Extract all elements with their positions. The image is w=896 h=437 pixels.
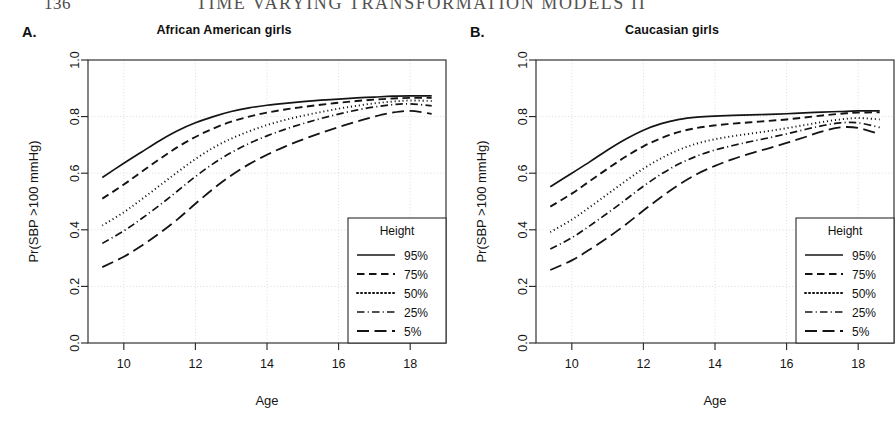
y-tick-label: 0.2 [68,278,82,295]
y-tick-label: 1.0 [68,51,82,68]
x-tick-label: 16 [780,357,794,371]
curve-75pct [102,98,431,199]
legend: Height95%75%50%25%5% [348,218,446,343]
x-tick-label: 18 [851,357,865,371]
legend-label-50pct: 50% [404,287,428,301]
panel-a: A. African American girls 10121416180.00… [0,0,448,437]
curve-50pct [550,118,879,232]
panel-b: B. Caucasian girls 10121416180.00.20.40.… [448,0,896,437]
x-axis-title: Age [703,393,726,408]
y-tick-label: 0.6 [68,164,82,181]
legend-label-50pct: 50% [852,287,876,301]
x-tick-label: 12 [188,357,202,371]
legend-label-75pct: 75% [852,268,876,282]
y-tick-label: 0.2 [516,278,530,295]
y-tick-label: 0.8 [516,108,530,125]
y-tick-label: 0.4 [516,221,530,238]
y-axis-title: Pr(SBP >100 mmHg) [26,140,41,262]
legend-title: Height [828,224,863,238]
legend-label-25pct: 25% [404,306,428,320]
x-tick-label: 18 [403,357,417,371]
legend-label-95pct: 95% [404,249,428,263]
x-tick-label: 14 [260,357,274,371]
legend: Height95%75%50%25%5% [796,218,894,343]
x-tick-label: 12 [636,357,650,371]
legend-label-5pct: 5% [852,325,870,339]
x-axis-title: Age [255,393,278,408]
y-tick-label: 0.6 [516,164,530,181]
panel-b-plot: 10121416180.00.20.40.60.81.0AgePr(SBP >1… [448,0,896,437]
legend-title: Height [380,224,415,238]
legend-label-75pct: 75% [404,268,428,282]
x-tick-label: 14 [708,357,722,371]
y-tick-label: 1.0 [516,51,530,68]
legend-label-95pct: 95% [852,249,876,263]
x-tick-label: 10 [565,357,579,371]
y-tick-label: 0.0 [68,334,82,351]
y-tick-label: 0.0 [516,334,530,351]
y-tick-label: 0.8 [68,108,82,125]
y-axis-title: Pr(SBP >100 mmHg) [474,140,489,262]
panel-a-plot: 10121416180.00.20.40.60.81.0AgePr(SBP >1… [0,0,448,437]
x-tick-label: 10 [117,357,131,371]
legend-label-25pct: 25% [852,306,876,320]
y-tick-label: 0.4 [68,221,82,238]
x-tick-label: 16 [332,357,346,371]
legend-label-5pct: 5% [404,325,422,339]
